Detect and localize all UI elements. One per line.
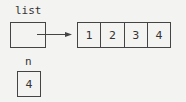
n-variable-label: n: [25, 56, 32, 67]
pointer-arrow-head: [65, 32, 72, 37]
array-block: 1 2 3 4: [77, 22, 171, 48]
array-cell: 4: [148, 23, 170, 47]
array-cell: 2: [101, 23, 124, 47]
n-value: 4: [26, 78, 33, 91]
array-cell: 1: [78, 23, 101, 47]
n-value-box: 4: [17, 71, 41, 97]
array-cell: 3: [125, 23, 148, 47]
